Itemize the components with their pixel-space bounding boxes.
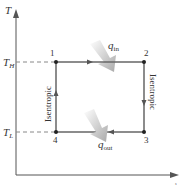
process-label-left: Isentropic [43, 86, 53, 122]
arrow-down-icon [142, 100, 147, 106]
arrow-right-icon [87, 60, 93, 65]
heat-out-arrow-icon [84, 109, 108, 142]
state-label-2: 2 [144, 48, 149, 58]
state-point-2 [142, 60, 146, 64]
y-axis-arrow-icon [13, 9, 19, 18]
x-axis-arrow-icon [170, 172, 179, 178]
y-axis-label: T [5, 4, 12, 16]
q-in-label: qin [108, 39, 119, 53]
th-label: TH [3, 56, 15, 70]
x-axis [16, 172, 179, 178]
process-label-right: Isentropic [148, 74, 158, 110]
arrow-left-icon [108, 130, 114, 135]
arrow-up-icon [54, 90, 59, 96]
state-label-3: 3 [144, 135, 149, 145]
state-point-1 [54, 60, 58, 64]
ts-diagram: T s TH TL 1 2 3 4 qin qout Isentropic Is [0, 0, 182, 185]
tl-label: TL [3, 126, 13, 140]
state-point-4 [54, 130, 58, 134]
state-label-1: 1 [50, 48, 55, 58]
x-axis-label: s [175, 181, 177, 185]
state-label-4: 4 [53, 135, 58, 145]
state-point-3 [142, 130, 146, 134]
y-axis [13, 9, 19, 175]
